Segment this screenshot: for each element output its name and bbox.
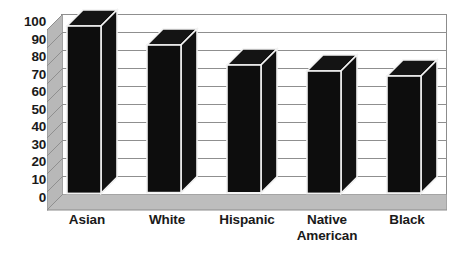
x-tick-asian: Asian <box>47 212 127 228</box>
y-axis: 100 90 80 70 60 50 40 30 20 10 0 <box>0 0 46 257</box>
bar-3d-faces <box>67 10 117 193</box>
y-tick-label: 0 <box>2 191 46 205</box>
bar-3d-faces <box>307 55 357 193</box>
x-tick-label: Black <box>367 212 447 228</box>
bars-layer <box>47 14 447 210</box>
y-tick-label: 100 <box>2 15 46 29</box>
bar-hispanic[interactable] <box>227 49 277 193</box>
y-tick-label: 20 <box>2 155 46 169</box>
y-tick-label: 40 <box>2 120 46 134</box>
bar-3d-faces <box>387 60 437 193</box>
y-tick-label: 90 <box>2 33 46 47</box>
x-tick-native-american: Native American <box>287 212 367 244</box>
bar-white[interactable] <box>147 29 197 193</box>
x-axis: Asian White Hispanic Native American Bla… <box>47 212 447 257</box>
x-tick-label: Native <box>287 212 367 228</box>
x-tick-black: Black <box>367 212 447 228</box>
bar-black[interactable] <box>387 60 437 193</box>
y-tick-label: 50 <box>2 103 46 117</box>
bar-3d-faces <box>227 49 277 193</box>
y-tick-label: 80 <box>2 50 46 64</box>
bar-native-american[interactable] <box>307 55 357 193</box>
x-tick-label: Hispanic <box>207 212 287 228</box>
x-tick-label: White <box>127 212 207 228</box>
x-tick-hispanic: Hispanic <box>207 212 287 228</box>
x-tick-label: Asian <box>47 212 127 228</box>
bar-3d-faces <box>147 29 197 193</box>
y-tick-label: 70 <box>2 68 46 82</box>
y-tick-label: 30 <box>2 138 46 152</box>
bar-asian[interactable] <box>67 10 117 193</box>
x-tick-label-line2: American <box>287 228 367 244</box>
y-tick-label: 10 <box>2 173 46 187</box>
y-tick-label: 60 <box>2 85 46 99</box>
bar-chart: 100 90 80 70 60 50 40 30 20 10 0 <box>0 0 459 257</box>
x-tick-white: White <box>127 212 207 228</box>
